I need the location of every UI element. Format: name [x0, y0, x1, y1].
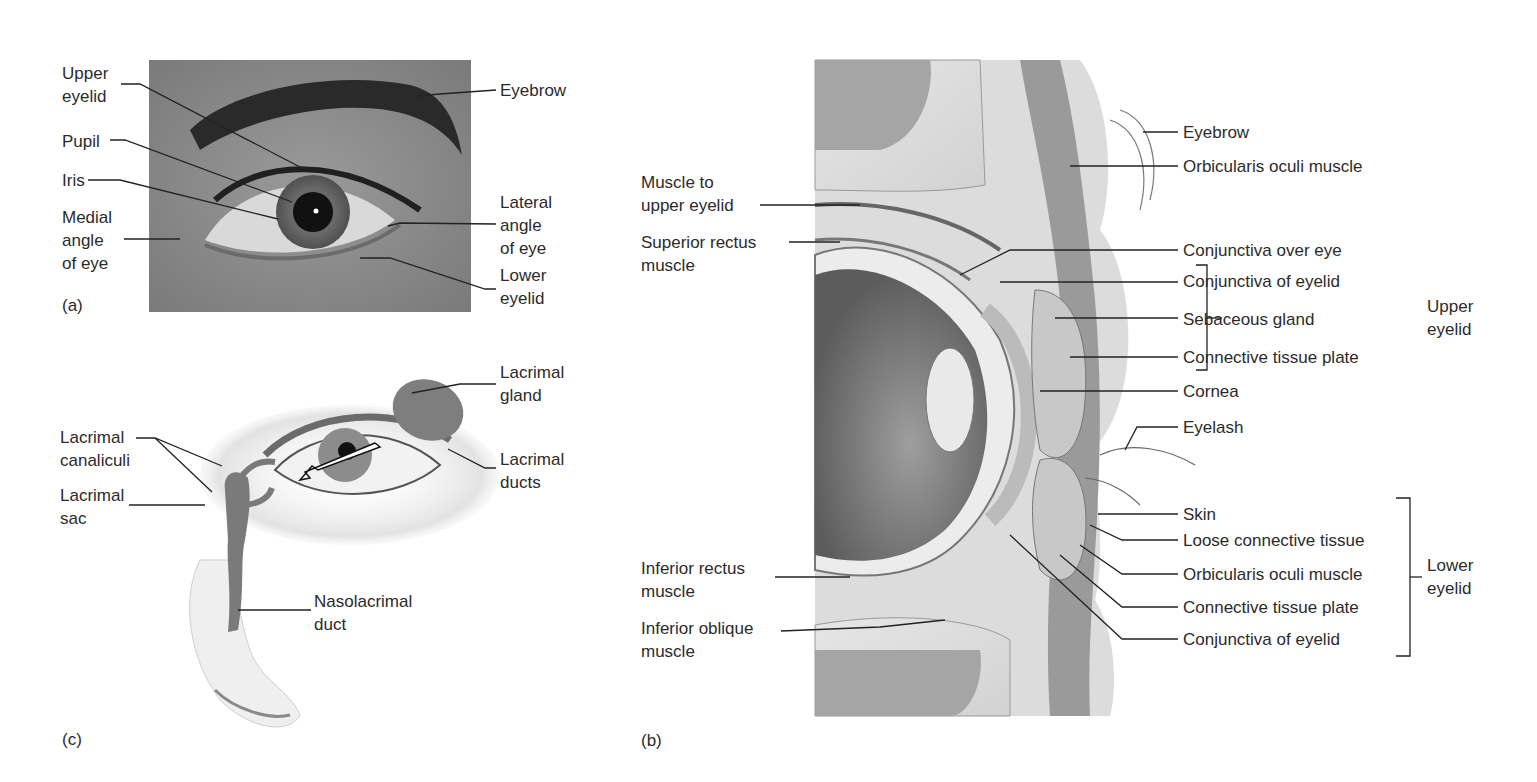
- panel-b-illustration: [815, 60, 1195, 716]
- label-lacrimal-canaliculi: Lacrimal canaliculi: [60, 426, 130, 472]
- label-lateral-angle: Lateral angle of eye: [500, 191, 552, 260]
- label-sebaceous-gland: Sebaceous gland: [1183, 308, 1314, 331]
- label-loose-connective: Loose connective tissue: [1183, 529, 1364, 552]
- label-lower-eyelid: Lower eyelid: [500, 264, 546, 310]
- label-pupil: Pupil: [62, 130, 100, 153]
- label-conjunctiva-eyelid-lower: Conjunctiva of eyelid: [1183, 628, 1340, 651]
- label-conjunctiva-eyelid-upper: Conjunctiva of eyelid: [1183, 270, 1340, 293]
- label-lacrimal-ducts: Lacrimal ducts: [500, 448, 564, 494]
- label-cornea: Cornea: [1183, 380, 1239, 403]
- panel-c-illustration: [190, 369, 500, 727]
- label-lacrimal-sac: Lacrimal sac: [60, 484, 124, 530]
- label-connective-plate-lower: Connective tissue plate: [1183, 596, 1359, 619]
- label-inferior-rectus: Inferior rectus muscle: [641, 557, 745, 603]
- figure-artwork: [0, 0, 1537, 782]
- bracket-label-lower-eyelid: Lower eyelid: [1427, 554, 1473, 600]
- label-upper-eyelid: Upper eyelid: [62, 62, 108, 108]
- label-inferior-oblique: Inferior oblique muscle: [641, 617, 753, 663]
- panel-a-photo: [149, 60, 471, 312]
- label-eyelash: Eyelash: [1183, 416, 1243, 439]
- label-skin: Skin: [1183, 503, 1216, 526]
- panel-a-letter: (a): [62, 296, 83, 316]
- bracket-label-upper-eyelid: Upper eyelid: [1427, 295, 1473, 341]
- panel-c-letter: (c): [62, 730, 82, 750]
- label-connective-plate-upper: Connective tissue plate: [1183, 346, 1359, 369]
- label-nasolacrimal-duct: Nasolacrimal duct: [314, 590, 412, 636]
- label-iris: Iris: [62, 169, 85, 192]
- label-superior-rectus: Superior rectus muscle: [641, 231, 756, 277]
- label-eyebrow-b: Eyebrow: [1183, 121, 1249, 144]
- label-muscle-upper-eyelid: Muscle to upper eyelid: [641, 171, 734, 217]
- label-medial-angle: Medial angle of eye: [62, 206, 112, 275]
- label-orbicularis-upper: Orbicularis oculi muscle: [1183, 155, 1363, 178]
- panel-b-letter: (b): [641, 731, 662, 751]
- label-conjunctiva-over-eye: Conjunctiva over eye: [1183, 239, 1342, 262]
- label-eyebrow-a: Eyebrow: [500, 79, 566, 102]
- label-orbicularis-lower: Orbicularis oculi muscle: [1183, 563, 1363, 586]
- label-lacrimal-gland: Lacrimal gland: [500, 361, 564, 407]
